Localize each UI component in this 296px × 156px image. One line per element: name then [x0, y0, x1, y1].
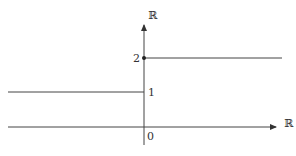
closed-endpoint-dot	[142, 56, 146, 60]
step-function-diagram: ℝ ℝ 2 1 0	[0, 0, 296, 156]
y-axis-label: ℝ	[148, 9, 158, 22]
tick-label-two: 2	[133, 52, 140, 65]
origin-label: 0	[147, 130, 154, 143]
tick-label-one: 1	[148, 86, 155, 99]
x-axis-label: ℝ	[284, 117, 294, 130]
